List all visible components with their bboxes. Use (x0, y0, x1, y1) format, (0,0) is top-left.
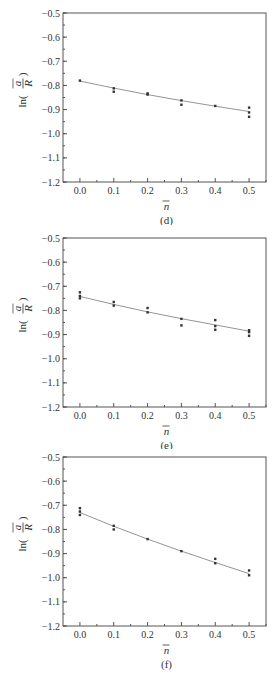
data-point (214, 562, 216, 564)
x-tick-label: 0.4 (209, 629, 222, 640)
fit-line (80, 513, 249, 574)
y-tick-label: −1.2 (42, 402, 60, 413)
data-point (214, 329, 216, 331)
x-tick-label: 0.3 (175, 629, 188, 640)
data-point (248, 111, 250, 113)
data-point (113, 525, 115, 527)
chart-d: −0.5−0.6−0.7−0.8−0.9−1.0−1.1−1.20.00.10.… (0, 0, 277, 225)
chart-panel-d: −0.5−0.6−0.7−0.8−0.9−1.0−1.1−1.20.00.10.… (0, 0, 277, 225)
x-tick-label: 0.0 (74, 629, 87, 640)
panel-caption: (f) (161, 658, 172, 671)
x-tick-label: 0.5 (243, 185, 256, 196)
data-point (79, 297, 81, 299)
panel-caption: (e) (160, 439, 173, 449)
data-point (214, 558, 216, 560)
y-tick-label: −0.9 (42, 104, 60, 115)
data-point (180, 550, 182, 552)
data-point (248, 116, 250, 118)
data-point (79, 514, 81, 516)
x-tick-label: 0.1 (108, 629, 121, 640)
data-point (113, 528, 115, 530)
fit-line (80, 81, 249, 111)
data-point (214, 325, 216, 327)
y-axis-label: ln(aR) (11, 72, 34, 107)
plot-frame (63, 238, 266, 407)
data-point (248, 106, 250, 108)
y-axis-label-ln: ln( (16, 539, 29, 552)
y-axis-label-close: ) (16, 297, 29, 301)
y-axis-label-den: R (22, 524, 34, 532)
y-axis-label: ln(aR) (11, 516, 34, 551)
data-point (214, 105, 216, 107)
panel-caption: (d) (160, 214, 173, 225)
data-point (79, 295, 81, 297)
y-tick-label: −0.6 (42, 476, 60, 487)
y-axis-label-close: ) (16, 516, 29, 520)
y-axis-label-den: R (22, 80, 34, 88)
y-tick-label: −1.2 (42, 177, 60, 188)
data-point (146, 311, 148, 313)
data-point (180, 99, 182, 101)
x-axis-label-text: n (164, 200, 170, 212)
x-tick-label: 0.4 (209, 410, 222, 421)
y-tick-label: −1.1 (42, 152, 60, 163)
data-point (113, 91, 115, 93)
y-tick-label: −0.8 (42, 80, 60, 91)
y-axis-label: ln(aR) (11, 297, 34, 332)
data-point (248, 331, 250, 333)
y-tick-label: −0.7 (42, 281, 60, 292)
data-point (146, 93, 148, 95)
y-axis-label-ln: ln( (16, 320, 29, 333)
y-tick-label: −0.7 (42, 500, 60, 511)
x-tick-label: 0.0 (74, 185, 87, 196)
data-point (248, 335, 250, 337)
x-axis-label: n (163, 644, 170, 656)
chart-f: −0.5−0.6−0.7−0.8−0.9−1.0−1.1−1.20.00.10.… (0, 449, 277, 673)
y-axis-label-den: R (22, 305, 34, 313)
x-tick-label: 0.2 (141, 185, 154, 196)
y-tick-label: −1.1 (42, 377, 60, 388)
data-point (113, 87, 115, 89)
y-tick-label: −0.6 (42, 32, 60, 43)
x-axis-label: n (163, 200, 170, 212)
x-tick-label: 0.2 (141, 629, 154, 640)
y-tick-label: −1.0 (42, 572, 60, 583)
fit-line (80, 296, 249, 331)
y-tick-label: −0.7 (42, 56, 60, 67)
data-point (113, 304, 115, 306)
chart-e: −0.5−0.6−0.7−0.8−0.9−1.0−1.1−1.20.00.10.… (0, 225, 277, 449)
y-tick-label: −0.5 (42, 8, 60, 19)
x-tick-label: 0.1 (108, 410, 121, 421)
data-point (248, 569, 250, 571)
chart-panel-f: −0.5−0.6−0.7−0.8−0.9−1.0−1.1−1.20.00.10.… (0, 449, 277, 673)
data-point (113, 301, 115, 303)
y-tick-label: −0.8 (42, 305, 60, 316)
x-tick-label: 0.3 (175, 410, 188, 421)
x-axis-label-text: n (164, 425, 170, 437)
y-tick-label: −0.6 (42, 257, 60, 268)
x-tick-label: 0.2 (141, 410, 154, 421)
x-tick-label: 0.1 (108, 185, 121, 196)
data-point (180, 104, 182, 106)
x-tick-label: 0.4 (209, 185, 222, 196)
x-tick-label: 0.5 (243, 410, 256, 421)
y-axis-label-ln: ln( (16, 95, 29, 108)
y-tick-label: −0.9 (42, 329, 60, 340)
data-point (214, 319, 216, 321)
y-tick-label: −1.0 (42, 353, 60, 364)
y-tick-label: −1.0 (42, 128, 60, 139)
data-point (146, 307, 148, 309)
y-axis-label-close: ) (16, 72, 29, 76)
x-tick-label: 0.5 (243, 629, 256, 640)
data-point (248, 574, 250, 576)
data-point (180, 324, 182, 326)
y-tick-label: −0.5 (42, 233, 60, 244)
x-tick-label: 0.0 (74, 410, 87, 421)
y-tick-label: −0.8 (42, 524, 60, 535)
chart-panel-e: −0.5−0.6−0.7−0.8−0.9−1.0−1.1−1.20.00.10.… (0, 225, 277, 449)
data-point (79, 510, 81, 512)
plot-frame (63, 457, 266, 626)
y-tick-label: −0.9 (42, 548, 60, 559)
data-point (79, 291, 81, 293)
data-point (180, 318, 182, 320)
